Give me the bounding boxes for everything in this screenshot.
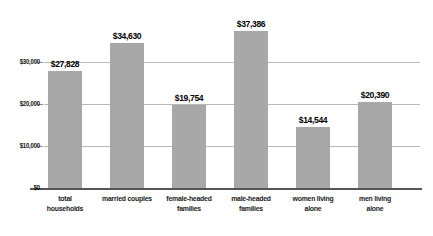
- bar-women-living-alone[interactable]: [296, 127, 330, 188]
- category-label-male-headed-families: male-headed families: [218, 194, 284, 214]
- x-axis-baseline: [30, 188, 422, 190]
- bar-married-couples[interactable]: [110, 43, 144, 188]
- category-label-married-couples: married couples: [94, 194, 160, 204]
- value-label-total-households: $27,828: [34, 58, 97, 69]
- category-line-2: families: [218, 204, 284, 214]
- category-label-men-living-alone: men living alone: [342, 194, 408, 214]
- value-label-men-living-alone: $20,390: [344, 89, 407, 100]
- category-line-1: women living: [280, 194, 346, 204]
- category-label-female-headed-families: female-headed families: [156, 194, 222, 214]
- category-line-1: total: [32, 194, 98, 204]
- value-label-female-headed-families: $19,754: [158, 92, 221, 103]
- category-label-women-living-alone: women living alone: [280, 194, 346, 214]
- category-label-total-households: total households: [32, 194, 98, 214]
- y-tick-label-20000: $20,000: [1, 100, 40, 107]
- category-line-2: families: [156, 204, 222, 214]
- bar-male-headed-families[interactable]: [234, 31, 268, 188]
- bar-female-headed-families[interactable]: [172, 105, 206, 188]
- category-line-1: male-headed: [218, 194, 284, 204]
- bar-total-households[interactable]: [48, 71, 82, 188]
- category-line-2: alone: [280, 204, 346, 214]
- category-line-1: married couples: [94, 194, 160, 204]
- y-tick-label-0: $0: [1, 184, 40, 191]
- category-line-2: alone: [342, 204, 408, 214]
- category-line-1: female-headed: [156, 194, 222, 204]
- category-line-1: men living: [342, 194, 408, 204]
- value-label-male-headed-families: $37,386: [220, 18, 283, 29]
- bar-chart: $30,000 $20,000 $10,000 $0 $27,828 $34,6…: [0, 0, 433, 236]
- bar-men-living-alone[interactable]: [358, 102, 392, 188]
- category-line-2: households: [32, 204, 98, 214]
- value-label-married-couples: $34,630: [96, 30, 159, 41]
- y-tick-label-10000: $10,000: [1, 142, 40, 149]
- value-label-women-living-alone: $14,544: [282, 114, 345, 125]
